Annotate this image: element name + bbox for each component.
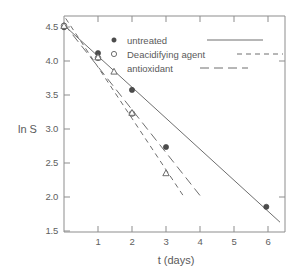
y-ticklabel-2: 3.5 — [45, 89, 58, 100]
x-ticklabel-3: 4 — [197, 236, 202, 247]
data-point — [129, 87, 134, 92]
data-point — [163, 170, 169, 176]
data-point — [264, 204, 269, 209]
y-axis-label: ln S — [18, 123, 37, 135]
x-ticklabel-4: 5 — [231, 236, 236, 247]
chart-legend: untreated Deacidifying agent antioxidant — [111, 35, 283, 75]
legend-label-antioxidant: antioxidant — [127, 63, 173, 74]
x-ticklabel-1: 2 — [129, 236, 134, 247]
x-axis-label: t (days) — [158, 254, 195, 266]
y-ticklabel-1: 4.0 — [45, 55, 58, 66]
legend-label-deacidifying-agent: Deacidifying agent — [127, 49, 206, 60]
y-ticklabel-4: 2.5 — [45, 157, 58, 168]
legend-marker-filled-circle-icon — [112, 38, 116, 42]
y-axis-tick-labels: 4.5 4.0 3.5 3.0 2.5 2.0 1.5 — [45, 21, 58, 236]
y-ticklabel-0: 4.5 — [45, 21, 58, 32]
x-axis-tick-labels: 1 2 3 4 5 6 — [95, 236, 270, 247]
x-ticklabel-0: 1 — [95, 236, 100, 247]
chart-figure: 4.5 4.0 3.5 3.0 2.5 2.0 1.5 ln S — [0, 0, 304, 279]
y-ticklabel-6: 1.5 — [45, 225, 58, 236]
legend-label-untreated: untreated — [127, 35, 167, 46]
deacidifying-markers — [61, 23, 135, 116]
y-ticklabel-5: 2.0 — [45, 191, 58, 202]
data-point — [163, 144, 168, 149]
y-ticklabel-3: 3.0 — [45, 123, 58, 134]
x-ticklabel-5: 6 — [265, 236, 270, 247]
antioxidant-markers — [61, 23, 169, 176]
chart-svg: 4.5 4.0 3.5 3.0 2.5 2.0 1.5 ln S — [0, 0, 304, 279]
x-ticklabel-2: 3 — [163, 236, 168, 247]
legend-marker-open-circle-icon — [111, 51, 116, 56]
